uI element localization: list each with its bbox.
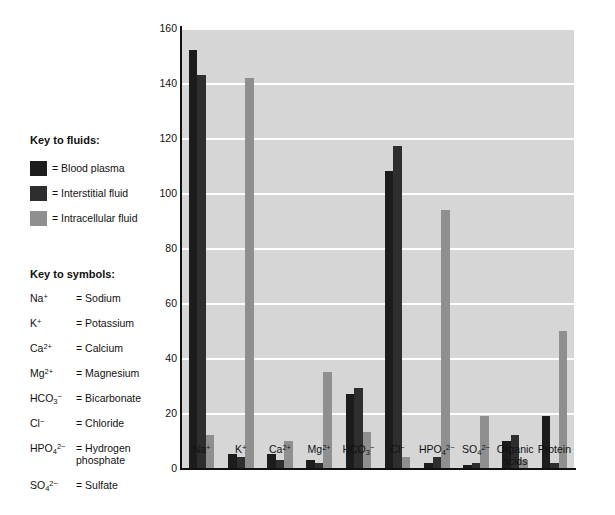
blood-plasma-swatch [30,161,47,176]
symbol-formula: Cl− [30,417,76,429]
bar-group [228,28,255,468]
y-tick-label: 100 [159,188,177,198]
bar-group [188,28,215,468]
bar-group [306,28,333,468]
fluid-legend-label: = Intracellular fluid [52,212,138,224]
bar [393,146,402,468]
y-tick-label: 160 [159,23,177,33]
fluid-legend-label: = Interstitial fluid [52,187,128,199]
key-to-fluids-heading: Key to fluids: [30,134,100,146]
symbol-formula: Na+ [30,292,76,304]
symbol-formula: K+ [30,317,76,329]
symbol-formula: Mg2+ [30,367,76,379]
bar [197,75,206,468]
fluid-legend-label: = Blood plasma [52,162,125,174]
y-tick-label: 20 [165,408,177,418]
fluid-legend-item: = Blood plasma [30,160,125,176]
chart-region: Total solute concentration (mEq/L) 02040… [150,0,615,515]
bar-group [424,28,451,468]
key-to-symbols-heading: Key to symbols: [30,268,115,280]
bar [245,78,254,469]
bar [237,457,246,468]
y-tick-label: 140 [159,78,177,88]
bar [228,454,237,468]
bar [433,457,442,468]
x-axis-line [180,468,576,470]
bar-group [541,28,568,468]
symbol-formula: Ca2+ [30,342,76,354]
bar-group [384,28,411,468]
y-tick-label: 120 [159,133,177,143]
fluid-legend-item: = Interstitial fluid [30,185,128,201]
bar-group [345,28,372,468]
bar-group [267,28,294,468]
interstitial-swatch [30,186,47,201]
bar [354,388,363,468]
symbol-formula: HPO42− [30,442,76,454]
y-axis-line [180,26,182,470]
fluid-legend-item: = Intracellular fluid [30,210,138,226]
bar [189,50,198,468]
intracellular-swatch [30,211,47,226]
plot-area: 020406080100120140160 [182,28,574,468]
bar [441,210,450,469]
bar [346,394,355,468]
bar [306,460,315,468]
x-tick-label: Protein [529,443,580,455]
symbol-formula: HCO3− [30,392,76,404]
y-tick-label: 80 [165,243,177,253]
bar [542,416,551,468]
bar-group [463,28,490,468]
bar [267,454,276,468]
y-tick-label: 40 [165,353,177,363]
symbol-formula: SO42− [30,479,76,491]
bar [385,171,394,468]
bar [276,460,285,468]
y-tick-label: 60 [165,298,177,308]
y-tick-label: 0 [171,463,177,473]
bar [402,457,411,468]
bar-group [502,28,529,468]
